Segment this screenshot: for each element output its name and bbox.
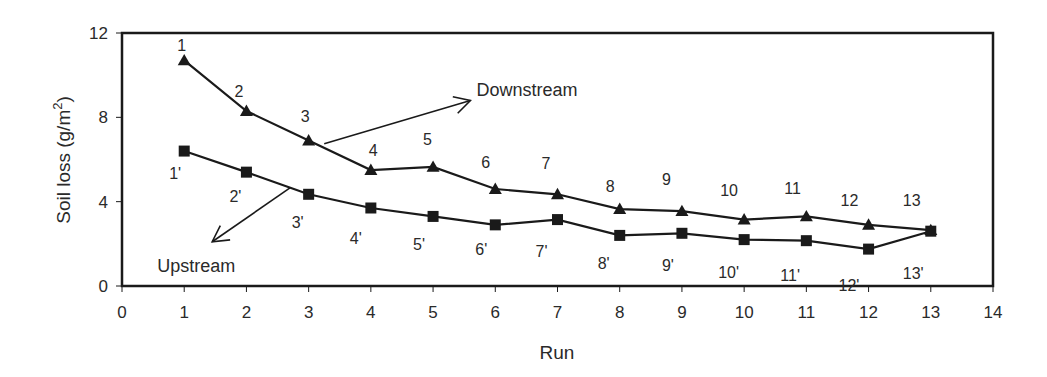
series-line (184, 151, 931, 249)
square-marker (179, 146, 190, 157)
point-label: 12' (839, 277, 860, 294)
square-marker (676, 228, 687, 239)
triangle-marker (178, 54, 191, 65)
y-tick-label: 8 (99, 108, 108, 127)
point-label: 9' (662, 257, 674, 274)
y-axis-title: Soil loss (g/m2) (50, 96, 74, 224)
x-tick-label: 0 (117, 303, 126, 322)
point-label: 6' (475, 241, 487, 258)
point-label: 4' (350, 230, 362, 247)
annotation-label: Upstream (157, 256, 235, 276)
square-marker (303, 189, 314, 200)
point-label: 2 (234, 83, 243, 100)
axes: 0123456789101112131404812 (89, 24, 1002, 322)
square-marker (241, 167, 252, 178)
annotation-upstream: Upstream (157, 188, 290, 276)
x-axis-title: Run (540, 342, 575, 363)
x-tick-label: 9 (677, 303, 686, 322)
square-marker (428, 211, 439, 222)
y-tick-label: 4 (99, 193, 108, 212)
point-label: 3 (301, 108, 310, 125)
point-label: 2' (229, 188, 241, 205)
series-layer: 123456789101112131'2'3'4'5'6'7'8'9'10'11… (169, 37, 937, 294)
soil-loss-chart: 0123456789101112131404812 12345678910111… (0, 0, 1047, 377)
annotation-label: Downstream (476, 80, 577, 100)
arrow-icon (324, 100, 470, 143)
point-label: 5' (413, 236, 425, 253)
point-label: 4 (369, 142, 378, 159)
point-label: 8 (606, 178, 615, 195)
point-label: 13 (903, 192, 921, 209)
point-label: 1' (169, 165, 181, 182)
point-label: 3' (292, 214, 304, 231)
point-label: 10' (718, 264, 739, 281)
series-downstream: 12345678910111213 (177, 37, 937, 235)
x-tick-label: 7 (553, 303, 562, 322)
point-label: 8' (598, 255, 610, 272)
point-label: 9 (662, 171, 671, 188)
square-marker (801, 235, 812, 246)
x-tick-label: 5 (428, 303, 437, 322)
square-marker (739, 234, 750, 245)
point-label: 5 (423, 131, 432, 148)
x-tick-label: 10 (735, 303, 754, 322)
point-label: 12 (841, 192, 859, 209)
point-label: 10 (720, 182, 738, 199)
x-tick-label: 2 (242, 303, 251, 322)
square-marker (490, 219, 501, 230)
annotations: DownstreamUpstream (157, 80, 577, 275)
x-tick-label: 3 (304, 303, 313, 322)
square-marker (614, 230, 625, 241)
point-label: 7 (542, 155, 551, 172)
point-label: 7' (536, 243, 548, 260)
triangle-marker (302, 134, 315, 145)
square-marker (863, 244, 874, 255)
point-label: 13' (903, 265, 924, 282)
point-label: 1 (177, 37, 186, 54)
square-marker (365, 202, 376, 213)
point-label: 11' (780, 267, 800, 284)
point-label: 11 (784, 180, 801, 197)
x-tick-label: 6 (491, 303, 500, 322)
arrow-icon (212, 188, 290, 242)
square-marker (552, 214, 563, 225)
point-label: 6 (481, 154, 490, 171)
x-tick-label: 12 (859, 303, 878, 322)
x-tick-label: 1 (179, 303, 188, 322)
annotation-downstream: Downstream (324, 80, 577, 143)
x-tick-label: 14 (984, 303, 1003, 322)
y-tick-label: 12 (89, 24, 108, 43)
x-tick-label: 13 (921, 303, 940, 322)
y-tick-label: 0 (99, 277, 108, 296)
series-upstream: 1'2'3'4'5'6'7'8'9'10'11'12'13' (169, 146, 936, 295)
x-tick-label: 4 (366, 303, 375, 322)
square-marker (925, 226, 936, 237)
x-tick-label: 11 (798, 303, 816, 322)
x-tick-label: 8 (615, 303, 624, 322)
